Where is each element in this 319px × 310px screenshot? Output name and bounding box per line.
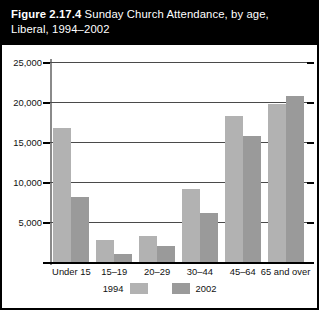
y-tick-right (307, 102, 314, 104)
figure-title-line1: Sunday Church Attendance, by age, (81, 8, 268, 20)
bar-groups (50, 62, 307, 262)
y-tick-right (307, 182, 314, 184)
legend-swatch-2002 (172, 283, 190, 294)
figure-number: Figure 2.17.4 (11, 8, 81, 20)
bar-2002 (200, 213, 218, 262)
bar-1994 (225, 116, 243, 262)
bar-group (182, 62, 218, 262)
bar-1994 (139, 236, 157, 262)
y-tick-left (43, 222, 50, 224)
bar-2002 (243, 136, 261, 262)
bar-group (53, 62, 89, 262)
chart-area: 5,00010,00015,00020,00025,000 Under 1515… (2, 45, 317, 308)
y-axis-labels: 5,00010,00015,00020,00025,000 (2, 62, 42, 262)
y-tick-left (43, 62, 50, 64)
y-tick-right (307, 222, 314, 224)
x-axis-tick-label: 45–64 (230, 266, 256, 277)
bar-group (96, 62, 132, 262)
legend-label-1994: 1994 (103, 283, 124, 294)
bar-2002 (286, 96, 304, 262)
bar-group (139, 62, 175, 262)
x-axis-tick-label: 20–29 (144, 266, 170, 277)
bar-group (225, 62, 261, 262)
x-axis-tick-label: 65 and over (261, 266, 311, 277)
bar-1994 (96, 240, 114, 262)
bar-2002 (114, 254, 132, 262)
y-tick-right (307, 142, 314, 144)
bar-2002 (71, 197, 89, 262)
figure-title-bar: Figure 2.17.4 Sunday Church Attendance, … (2, 2, 317, 45)
legend-swatch-1994 (130, 283, 148, 294)
figure-title: Figure 2.17.4 Sunday Church Attendance, … (11, 7, 307, 37)
bar-1994 (182, 189, 200, 262)
y-tick-left (43, 182, 50, 184)
figure-title-line2: Liberal, 1994–2002 (11, 23, 110, 35)
legend-label-2002: 2002 (196, 283, 217, 294)
x-axis-labels: Under 1515–1920–2930–4445–6465 and over (50, 266, 307, 282)
x-axis-tick-label: Under 15 (52, 266, 91, 277)
bar-2002 (157, 246, 175, 262)
y-axis-tick-label: 25,000 (13, 57, 42, 68)
y-tick-right (307, 62, 314, 64)
x-axis-tick-label: 15–19 (101, 266, 127, 277)
y-axis-tick-label: 15,000 (13, 137, 42, 148)
y-axis-tick-label: 10,000 (13, 177, 42, 188)
y-axis-tick-label: 5,000 (19, 217, 42, 228)
figure-container: Figure 2.17.4 Sunday Church Attendance, … (0, 0, 319, 310)
x-axis-tick-label: 30–44 (187, 266, 213, 277)
bar-group (268, 62, 304, 262)
x-axis-line (48, 262, 309, 264)
bar-1994 (268, 104, 286, 262)
y-tick-left (43, 102, 50, 104)
bar-1994 (53, 128, 71, 262)
y-tick-left (43, 142, 50, 144)
chart-legend: 1994 2002 (2, 283, 317, 294)
y-axis-tick-label: 20,000 (13, 97, 42, 108)
